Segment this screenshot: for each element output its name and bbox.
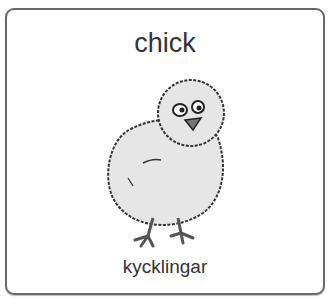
chick-illustration <box>103 68 233 248</box>
flashcard: chick kycklingar <box>5 8 325 295</box>
card-title: chick <box>7 28 323 59</box>
card-caption: kycklingar <box>7 256 323 278</box>
